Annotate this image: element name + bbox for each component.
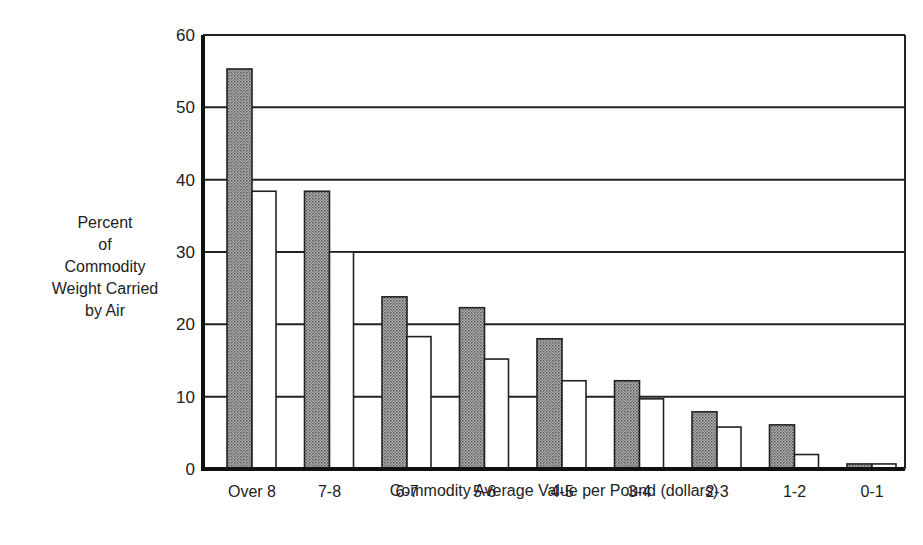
y-tick-labels: 0102030405060: [176, 26, 195, 479]
y-tick-label: 40: [176, 171, 195, 190]
bar-shaded: [770, 425, 795, 469]
bars: [227, 69, 896, 469]
y-axis-label: Percent of Commodity Weight Carried by A…: [40, 212, 170, 322]
y-tick-label: 30: [176, 243, 195, 262]
bar-shaded: [227, 69, 252, 469]
bar-white: [640, 399, 664, 469]
bar-shaded: [305, 191, 330, 469]
y-tick-label: 50: [176, 98, 195, 117]
y-tick-label: 60: [176, 26, 195, 45]
y-tick-label: 20: [176, 315, 195, 334]
bar-shaded: [537, 339, 562, 469]
y-tick-label: 10: [176, 388, 195, 407]
y-axis-label-line: of: [40, 234, 170, 256]
y-axis-label-line: by Air: [40, 300, 170, 322]
bar-white: [330, 252, 354, 469]
bar-white: [252, 191, 276, 469]
y-axis-label-line: Commodity: [40, 256, 170, 278]
y-tick-label: 0: [186, 460, 195, 479]
bar-white: [407, 337, 431, 469]
bar-white: [485, 359, 509, 469]
y-axis-label-line: Percent: [40, 212, 170, 234]
bar-shaded: [460, 308, 485, 469]
bar-white: [717, 427, 741, 469]
bar-shaded: [615, 381, 640, 469]
y-axis-label-line: Weight Carried: [40, 278, 170, 300]
bar-shaded: [692, 412, 717, 469]
bar-shaded: [382, 297, 407, 469]
bar-white: [795, 455, 819, 469]
bar-white: [562, 381, 586, 469]
x-axis-label: Commodity Average Value per Pound (dolla…: [203, 482, 905, 500]
